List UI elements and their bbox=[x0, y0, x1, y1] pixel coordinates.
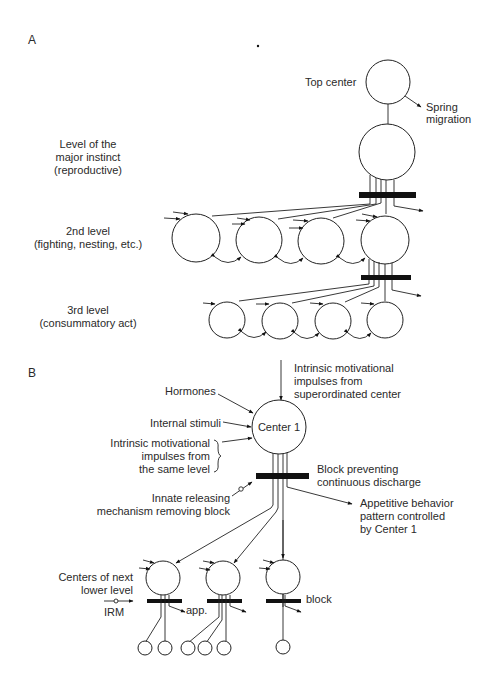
third-level-nodes bbox=[209, 302, 403, 339]
app-label: app. bbox=[186, 604, 207, 616]
major-level-3: (reproductive) bbox=[54, 164, 122, 176]
next-level-2: lower level bbox=[81, 584, 133, 596]
next-level-1: Centers of next bbox=[58, 571, 133, 583]
top-center-node bbox=[366, 60, 421, 107]
top-center-label: Top center bbox=[305, 76, 357, 88]
super-label-1: Intrinsic motivational bbox=[294, 362, 394, 374]
same-level-1: Intrinsic motivational bbox=[110, 437, 210, 449]
brace-icon bbox=[214, 440, 221, 472]
irm-label-2: mechanism removing block bbox=[97, 505, 231, 517]
panel-a-label: A bbox=[28, 33, 36, 47]
spring-label-1: Spring bbox=[426, 101, 458, 113]
block-bar bbox=[359, 192, 416, 198]
irm-label-1: Innate releasing bbox=[152, 492, 230, 504]
irm-icon bbox=[239, 487, 243, 491]
panel-b-label: B bbox=[28, 366, 36, 380]
second-level-1: 2nd level bbox=[66, 225, 110, 237]
major-level-2: major instinct bbox=[56, 151, 121, 163]
same-level-3: the same level bbox=[139, 463, 210, 475]
second-level-2: (fighting, nesting, etc.) bbox=[34, 238, 142, 250]
third-level-1: 3rd level bbox=[67, 304, 109, 316]
center-1-label: Center 1 bbox=[258, 421, 300, 433]
irm-small-icon bbox=[114, 599, 118, 603]
irm-short-label: IRM bbox=[104, 606, 124, 618]
third-level-2: (consummatory act) bbox=[39, 317, 136, 329]
block-bar bbox=[256, 473, 309, 479]
center-1-node: Center 1 bbox=[252, 400, 306, 454]
arrow-icon bbox=[405, 96, 421, 107]
internal-stimuli-label: Internal stimuli bbox=[150, 417, 221, 429]
block-short-label: block bbox=[306, 593, 332, 605]
appetitive-label-1: Appetitive behavior bbox=[360, 497, 454, 509]
block-label-2: continuous discharge bbox=[317, 476, 421, 488]
block-label-1: Block preventing bbox=[317, 463, 398, 475]
same-level-2: impulses from bbox=[142, 450, 210, 462]
hormones-label: Hormones bbox=[165, 385, 216, 397]
spring-label-2: migration bbox=[426, 113, 471, 125]
hierarchy-diagram: A Top center Spring migration Level of t… bbox=[0, 0, 489, 693]
stray-dot bbox=[257, 45, 259, 47]
appetitive-label-2: pattern controlled bbox=[360, 510, 445, 522]
major-level-1: Level of the bbox=[60, 138, 117, 150]
second-level-nodes bbox=[172, 214, 409, 264]
super-label-3: superordinated center bbox=[294, 388, 401, 400]
major-instinct-node bbox=[359, 124, 415, 180]
super-label-2: impulses from bbox=[294, 375, 362, 387]
lower-level-nodes bbox=[146, 560, 300, 595]
appetitive-label-3: by Center 1 bbox=[360, 523, 417, 535]
